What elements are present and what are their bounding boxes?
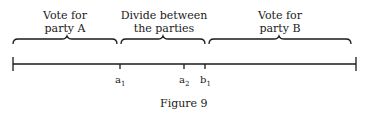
- tick-label-b1: b1: [200, 74, 211, 90]
- region-label-divide: Divide between the parties: [118, 9, 210, 35]
- figure-caption: Figure 9: [160, 97, 208, 110]
- region-label-party-a: Vote for party A: [30, 9, 100, 35]
- brace-divide: [121, 36, 205, 44]
- region-label-party-b: Vote for party B: [245, 9, 315, 35]
- tick-label-a1: a1: [115, 74, 125, 90]
- brace-party-b: [209, 36, 351, 44]
- brace-party-a: [13, 36, 117, 44]
- tick-label-a2: a2: [179, 74, 189, 90]
